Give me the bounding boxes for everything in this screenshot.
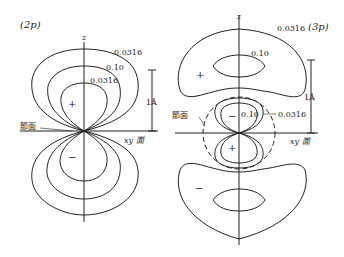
xy-plane-label-3p: xy 面 — [290, 137, 312, 146]
scale-label-2p: 1Å — [146, 98, 157, 107]
orbital-contour-figure: (2p) z 0.0316 0.10 0.0316 + − 1Å 節面 xy 面… — [0, 0, 344, 257]
contour-label-outer-2p: 0.0316 — [114, 48, 142, 57]
panel-2p — [20, 42, 158, 222]
contour-label-lobe-3p: 0.10 — [241, 110, 259, 119]
nodal-plane-label-3p: 節面 — [172, 110, 188, 120]
contour-label-outer-3p: 0.0316 — [277, 24, 305, 33]
sign-upper-outer-3p: + — [196, 69, 204, 80]
sign-lower-outer-3p: − — [195, 183, 203, 194]
scale-label-3p: 1Å — [304, 93, 315, 102]
contour-outer-upper-3p — [178, 29, 306, 97]
z-axis-label-3p: z — [236, 12, 242, 21]
sign-upper-2p: + — [68, 98, 76, 109]
sign-inner-upper-3p: − — [228, 111, 236, 122]
sign-inner-lower-3p: + — [228, 142, 236, 153]
contour-label-mid-2p: 0.10 — [106, 63, 124, 72]
panel-3p — [175, 15, 318, 245]
contour-label-inner-2p: 0.0316 — [90, 76, 118, 85]
z-axis-label-2p: z — [81, 33, 87, 42]
sign-lower-2p: − — [68, 152, 76, 163]
contour-label-inner-upper-3p: 0.10 — [251, 49, 269, 58]
contour-outer-lower-2p — [32, 131, 138, 215]
contour-label-lobe-outer-3p: 0.0316 — [278, 110, 306, 119]
contour-outer-lower-3p — [178, 163, 306, 239]
panel-title-2p: (2p) — [20, 19, 41, 30]
xy-plane-label-2p: xy 面 — [124, 136, 146, 145]
panel-title-3p: (3p) — [308, 21, 329, 32]
nodal-plane-label-2p: 節面 — [20, 121, 36, 131]
